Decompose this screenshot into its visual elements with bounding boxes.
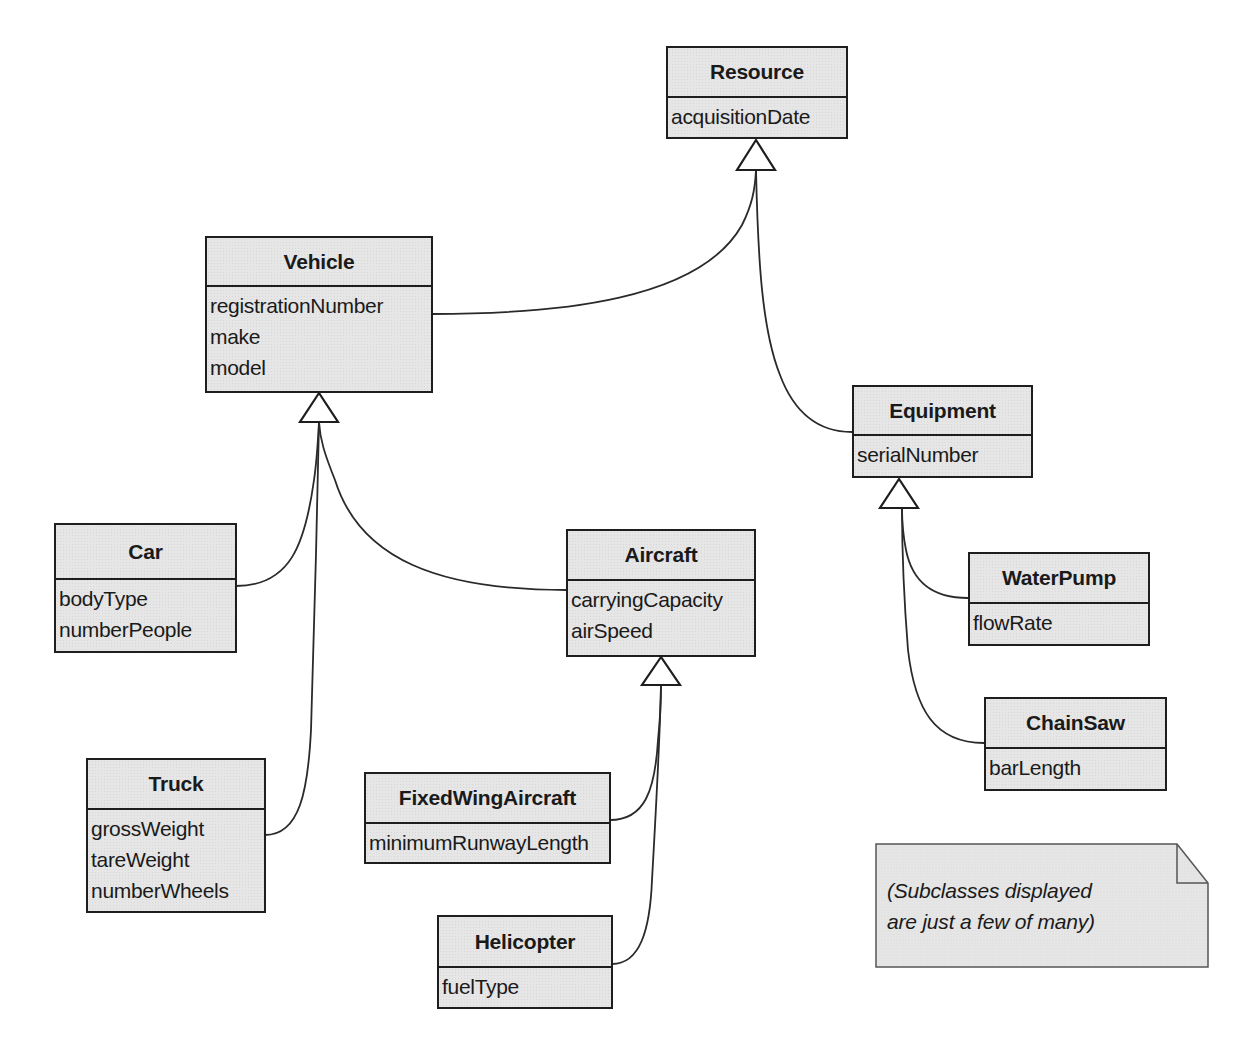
connector-vehicle-resource [432,170,756,314]
attribute: numberPeople [59,614,235,645]
class-resource: Resource acquisitionDate [666,46,848,139]
connector-equipment-resource [756,170,852,432]
attribute: flowRate [973,607,1148,638]
class-name: ChainSaw [986,699,1165,749]
class-attributes: fuelType [439,968,611,1002]
generalization-arrowhead-aircraft [642,657,680,685]
generalization-arrowhead-equipment [880,479,918,508]
class-name: Helicopter [439,917,611,968]
connector-truck-vehicle [265,422,319,835]
class-attributes: serialNumber [854,436,1031,470]
attribute: model [210,352,431,383]
class-name: Equipment [854,387,1031,436]
class-name: FixedWingAircraft [366,774,609,824]
attribute: serialNumber [857,439,1031,470]
connector-fixedwing-aircraft [610,684,661,820]
class-name: Vehicle [207,238,431,287]
connector-aircraft-vehicle [319,422,566,590]
class-attributes: registrationNumber make model [207,287,431,383]
generalization-arrowhead-resource [737,140,775,170]
attribute: acquisitionDate [671,101,846,132]
class-name: Aircraft [568,531,754,581]
class-attributes: flowRate [970,604,1148,638]
attribute: airSpeed [571,615,754,646]
class-name: Truck [88,760,264,810]
class-waterpump: WaterPump flowRate [968,552,1150,646]
attribute: tareWeight [91,844,264,875]
class-name: Car [56,525,235,580]
attribute: make [210,321,431,352]
connector-waterpump-equipment [902,508,968,598]
class-vehicle: Vehicle registrationNumber make model [205,236,433,393]
attribute: grossWeight [91,813,264,844]
attribute: barLength [989,752,1165,783]
class-fixedwingaircraft: FixedWingAircraft minimumRunwayLength [364,772,611,864]
class-attributes: acquisitionDate [668,98,846,132]
class-attributes: barLength [986,749,1165,783]
class-name: Resource [668,48,846,98]
attribute: numberWheels [91,875,264,906]
note-text: (Subclasses displayed are just a few of … [887,875,1095,937]
attribute: fuelType [442,971,611,1002]
class-car: Car bodyType numberPeople [54,523,237,653]
class-chainsaw: ChainSaw barLength [984,697,1167,791]
attribute: bodyType [59,583,235,614]
attribute: registrationNumber [210,290,431,321]
class-attributes: carryingCapacity airSpeed [568,581,754,646]
class-aircraft: Aircraft carryingCapacity airSpeed [566,529,756,657]
uml-note: (Subclasses displayed are just a few of … [875,843,1209,968]
class-attributes: bodyType numberPeople [56,580,235,645]
class-equipment: Equipment serialNumber [852,385,1033,478]
class-attributes: grossWeight tareWeight numberWheels [88,810,264,906]
attribute: carryingCapacity [571,584,754,615]
class-helicopter: Helicopter fuelType [437,915,613,1009]
class-name: WaterPump [970,554,1148,604]
class-attributes: minimumRunwayLength [366,824,609,858]
generalization-arrowhead-vehicle [300,393,338,422]
connector-helicopter-aircraft [612,684,661,964]
connector-car-vehicle [236,422,319,586]
attribute: minimumRunwayLength [369,827,609,858]
class-truck: Truck grossWeight tareWeight numberWheel… [86,758,266,913]
